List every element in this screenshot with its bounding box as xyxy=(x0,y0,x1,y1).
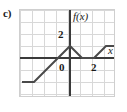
y-axis-label: f(x) xyxy=(73,10,89,23)
origin-tick-label: 0 xyxy=(59,61,65,73)
plot-frame: f(x) x 2 0 2 xyxy=(19,9,115,97)
figure-container: c) xyxy=(0,0,127,112)
y-tick-label-2: 2 xyxy=(58,28,64,40)
x-axis-label: x xyxy=(107,44,113,56)
x-tick-label-2: 2 xyxy=(91,61,97,73)
part-label: c) xyxy=(3,8,11,19)
axis-lines xyxy=(20,10,115,97)
graph-svg: f(x) x 2 0 2 xyxy=(20,10,115,97)
grid-lines xyxy=(20,10,115,97)
